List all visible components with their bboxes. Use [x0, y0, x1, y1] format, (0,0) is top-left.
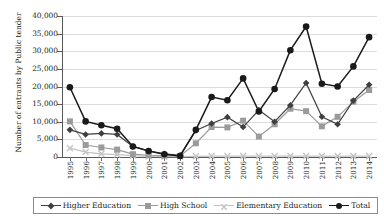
legend-label: High School	[160, 201, 207, 210]
y-tick-label: 35,000	[14, 30, 58, 37]
series-high-school	[67, 87, 372, 159]
x-tick-label: 2001	[158, 161, 170, 195]
series-higher-education	[67, 80, 373, 159]
chart-series-layer	[62, 16, 377, 157]
y-tick-label: 25,000	[14, 65, 58, 72]
x-tick-label: 2013	[347, 161, 359, 195]
y-tick-label: 30,000	[14, 47, 58, 54]
y-tick-label: 0	[14, 153, 58, 160]
legend-item: High School	[138, 201, 207, 210]
x-tick-label: 1999	[127, 161, 139, 195]
y-tick-label: 15,000	[14, 100, 58, 107]
legend-item: Total	[329, 201, 370, 210]
legend-item: Elementary Education	[214, 201, 322, 210]
legend-label: Total	[351, 201, 370, 210]
x-tick-label: 2012	[332, 161, 344, 195]
y-tick-label: 20,000	[14, 83, 58, 90]
legend-item: Higher Education	[41, 201, 131, 210]
x-tick-label: 1997	[95, 161, 107, 195]
legend-marker-icon	[41, 201, 61, 210]
legend-marker-icon	[214, 201, 234, 210]
y-tick-label: 40,000	[14, 12, 58, 19]
series-total	[67, 23, 373, 159]
legend-label: Elementary Education	[236, 201, 322, 210]
y-tick-mark	[57, 157, 62, 158]
x-tick-label: 2005	[221, 161, 233, 195]
x-tick-label: 2007	[253, 161, 265, 195]
x-tick-label: 1998	[111, 161, 123, 195]
legend-marker-icon	[138, 201, 158, 210]
x-tick-label: 2008	[269, 161, 281, 195]
chart-legend: Higher EducationHigh SchoolElementary Ed…	[33, 197, 378, 214]
chart-figure: { "chart_data": { "type": "line", "title…	[0, 0, 384, 220]
y-tick-label: 5,000	[14, 135, 58, 142]
x-tick-label: 2014	[363, 161, 375, 195]
x-tick-label: 2009	[284, 161, 296, 195]
x-tick-label: 2004	[206, 161, 218, 195]
x-tick-label: 2002	[174, 161, 186, 195]
x-tick-label: 2011	[316, 161, 328, 195]
y-tick-label: 10,000	[14, 118, 58, 125]
x-tick-label: 2006	[237, 161, 249, 195]
x-axis-line	[62, 157, 377, 158]
legend-marker-icon	[329, 201, 349, 210]
x-tick-label: 2003	[190, 161, 202, 195]
x-tick-label: 1995	[64, 161, 76, 195]
x-tick-label: 2010	[300, 161, 312, 195]
x-tick-label: 2000	[143, 161, 155, 195]
legend-label: Higher Education	[63, 201, 131, 210]
x-tick-label: 1996	[80, 161, 92, 195]
